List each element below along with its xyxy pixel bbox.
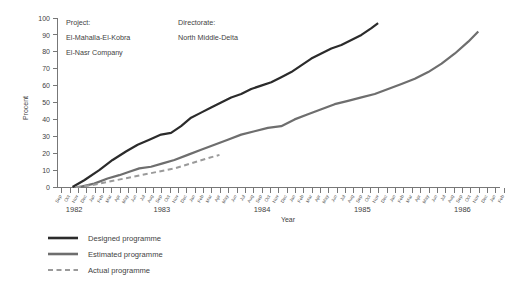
year-label: 1985 [354, 205, 371, 214]
y-tick-label: 80 [42, 48, 50, 55]
x-tick-label: Sep [54, 194, 62, 204]
year-label: 1986 [454, 205, 471, 214]
y-tick-label: 100 [38, 15, 50, 22]
x-tick-label: Jul [139, 194, 146, 202]
x-tick-label: Feb [297, 194, 305, 204]
x-axis-tick-labels: SepOctNovDecJanFebMarAprMayJunJulAugSepO… [54, 193, 505, 204]
x-tick-label: Nov [372, 194, 381, 204]
project-name-line2: El-Nasr Company [66, 48, 123, 57]
x-tick-label: Jan [288, 194, 296, 203]
x-tick-label: Mar [205, 194, 213, 204]
y-tick-label: 60 [42, 82, 50, 89]
x-tick-label: Dec [480, 194, 489, 204]
x-tick-label: May [121, 194, 130, 205]
project-label: Project: [66, 18, 90, 27]
x-tick-label: Jun [330, 194, 338, 203]
x-tick-label: Jan [188, 194, 196, 203]
series-lines [73, 23, 479, 187]
year-label: 1982 [66, 205, 83, 214]
y-tick-label: 20 [42, 150, 50, 157]
x-tick-label: Jan [389, 194, 397, 203]
x-tick-label: Jan [489, 194, 497, 203]
x-tick-label: Dec [280, 194, 289, 204]
legend-label: Actual programme [88, 266, 150, 275]
x-tick-label: Aug [246, 194, 254, 204]
year-label: 1983 [154, 205, 171, 214]
x-tick-label: Sep [255, 194, 263, 204]
progress-line-chart: 0102030405060708090100 SepOctNovDecJanFe… [0, 0, 517, 284]
x-tick-label: Feb [196, 194, 204, 204]
x-tick-label: Jul [439, 194, 446, 202]
x-tick-label: Mar [405, 194, 413, 204]
x-tick-label: Feb [497, 194, 505, 204]
x-tick-label: Dec [180, 194, 189, 204]
directorate-name: North Middle-Delta [178, 33, 238, 42]
x-axis-ticks [62, 188, 505, 193]
x-tick-label: Mar [105, 194, 113, 204]
y-tick-label: 40 [42, 116, 50, 123]
x-tick-label: Jan [88, 194, 96, 203]
legend-label: Estimated programme [88, 250, 163, 259]
x-tick-label: Mar [305, 194, 313, 204]
x-tick-label: Dec [380, 194, 389, 204]
chart-legend: Designed programmeEstimated programmeAct… [48, 234, 163, 275]
y-tick-label: 90 [42, 32, 50, 39]
x-tick-label: Jun [130, 194, 138, 203]
x-tick-label: Jun [230, 194, 238, 203]
x-tick-label: Jul [339, 194, 346, 202]
y-axis-ticks: 0102030405060708090100 [38, 15, 57, 191]
x-tick-label: Sep [455, 194, 463, 204]
y-tick-label: 30 [42, 133, 50, 140]
x-tick-label: Nov [271, 194, 280, 204]
x-tick-label: Jul [239, 194, 246, 202]
legend-label: Designed programme [88, 234, 161, 243]
series-line-estimated-programme [79, 32, 478, 187]
x-tick-label: May [321, 194, 330, 205]
x-tick-label: Nov [171, 194, 180, 204]
directorate-label: Directorate: [178, 18, 215, 27]
x-tick-label: May [221, 194, 230, 205]
x-axis-title: Year [281, 216, 296, 223]
y-tick-label: 50 [42, 99, 50, 106]
y-tick-label: 70 [42, 65, 50, 72]
x-tick-label: Dec [79, 194, 88, 204]
y-tick-label: 0 [46, 184, 50, 191]
x-tick-label: Nov [472, 194, 481, 204]
x-tick-label: Nov [71, 194, 80, 204]
x-tick-label: Aug [347, 194, 355, 204]
year-label: 1984 [254, 205, 271, 214]
y-axis-title: Procent [22, 96, 29, 120]
x-tick-label: Sep [355, 194, 363, 204]
x-tick-label: Aug [447, 194, 455, 204]
y-tick-label: 10 [42, 167, 50, 174]
project-name-line1: El-Mahalla-El-Kobra [66, 33, 130, 42]
x-tick-label: Feb [397, 194, 405, 204]
x-tick-label: Feb [96, 194, 104, 204]
x-tick-label: Sep [154, 194, 162, 204]
x-tick-label: Aug [146, 194, 154, 204]
x-tick-label: May [421, 194, 430, 205]
x-tick-label: Jun [430, 194, 438, 203]
chart-container: 0102030405060708090100 SepOctNovDecJanFe… [0, 0, 517, 284]
year-labels: 19821983198419851986 [66, 205, 471, 214]
